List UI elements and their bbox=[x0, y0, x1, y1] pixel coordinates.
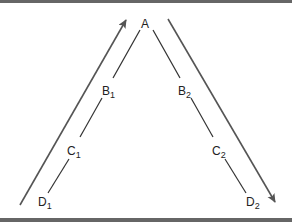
bottom-border bbox=[0, 218, 292, 222]
top-border bbox=[0, 0, 292, 3]
diagram-figure: A B1 C1 D1 B2 C2 D2 bbox=[0, 0, 292, 222]
left-line bbox=[48, 30, 140, 193]
label-b1: B1 bbox=[102, 84, 115, 100]
label-d1: D1 bbox=[38, 195, 52, 211]
right-arrow bbox=[168, 19, 275, 202]
label-d2: D2 bbox=[246, 195, 260, 211]
label-c1: C1 bbox=[67, 144, 81, 160]
diagram-canvas: A B1 C1 D1 B2 C2 D2 bbox=[0, 0, 292, 222]
right-line bbox=[153, 30, 246, 193]
label-b2: B2 bbox=[178, 84, 191, 100]
label-c2: C2 bbox=[212, 144, 226, 160]
label-a: A bbox=[141, 17, 149, 31]
left-arrow bbox=[20, 20, 126, 205]
